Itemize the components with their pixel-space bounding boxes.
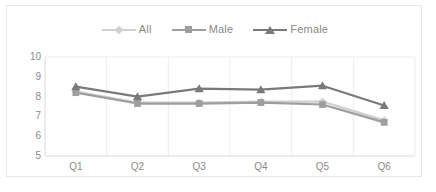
data-point-square [134,100,141,107]
x-axis: Q1Q2Q3Q4Q5Q6 [45,162,415,172]
chart-container: All Male Female 1098765 Q1Q2Q3Q4Q5Q6 [6,5,422,177]
square-marker-icon [185,26,192,33]
plot-area: 1098765 Q1Q2Q3Q4Q5Q6 [7,6,423,178]
x-axis-tick-label: Q5 [292,162,354,172]
x-axis-tick-label: Q1 [45,162,107,172]
data-point-square [319,101,326,108]
x-axis-tick-label: Q6 [353,162,415,172]
data-point-square [381,119,388,126]
triangle-marker-icon [265,26,275,34]
x-axis-tick-label: Q2 [107,162,169,172]
data-point-square [257,99,264,106]
x-axis-tick-label: Q3 [168,162,230,172]
plot-svg [7,6,423,178]
data-point-square [196,100,203,107]
x-axis-tick-label: Q4 [230,162,292,172]
